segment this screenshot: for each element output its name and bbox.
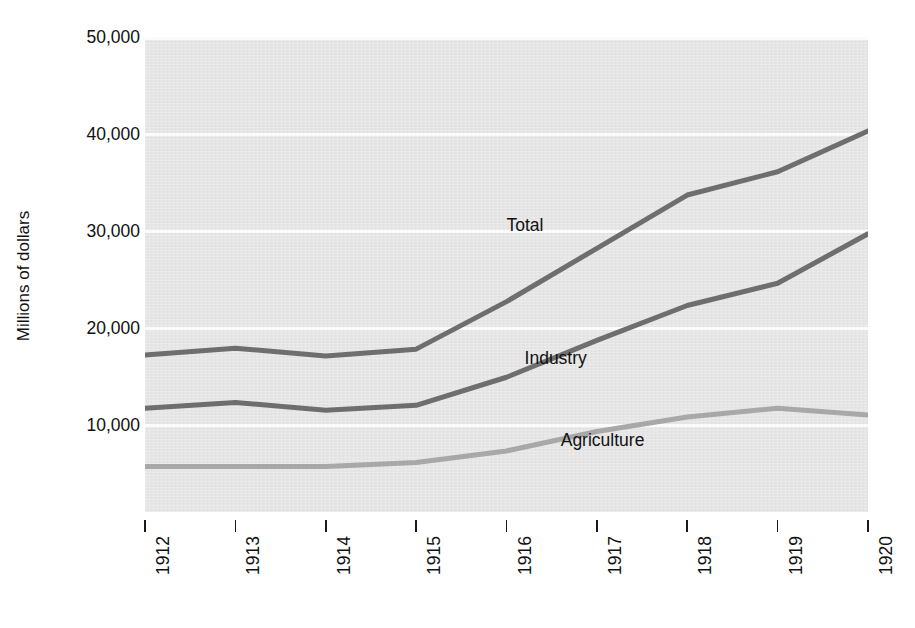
x-tick-label-1919: 1919	[786, 536, 807, 575]
x-tick-mark	[144, 520, 146, 532]
x-tick-mark	[506, 520, 508, 532]
series-label-agriculture: Agriculture	[561, 430, 645, 451]
x-tick-label-1918: 1918	[695, 536, 716, 575]
series-lines	[145, 38, 868, 512]
x-tick-label-1912: 1912	[153, 536, 174, 575]
x-tick-mark	[777, 520, 779, 532]
plot-area: TotalIndustryAgriculture	[145, 38, 868, 512]
y-tick-label: 30,000	[40, 221, 140, 242]
x-tick-mark	[415, 520, 417, 532]
x-tick-mark	[235, 520, 237, 532]
x-tick-mark	[867, 520, 869, 532]
y-tick-label: 20,000	[40, 318, 140, 339]
x-tick-label-1915: 1915	[424, 536, 445, 575]
y-tick-label: 10,000	[40, 415, 140, 436]
series-label-industry: Industry	[525, 348, 587, 369]
y-axis-tick-labels: 10,00020,00030,00040,00050,000	[36, 0, 140, 520]
series-line-agriculture	[145, 408, 868, 466]
x-tick-label-1917: 1917	[605, 536, 626, 575]
x-tick-label-1916: 1916	[515, 536, 536, 575]
series-label-total: Total	[507, 215, 544, 236]
x-tick-mark	[325, 520, 327, 532]
x-axis: 191219131914191519161917191819191920	[145, 512, 868, 628]
series-line-total	[145, 131, 868, 356]
x-tick-label-1914: 1914	[334, 536, 355, 575]
y-tick-label: 50,000	[40, 27, 140, 48]
x-tick-mark	[596, 520, 598, 532]
y-axis-title: Millions of dollars	[14, 166, 34, 386]
x-tick-label-1913: 1913	[243, 536, 264, 575]
series-line-industry	[145, 234, 868, 410]
x-tick-mark	[686, 520, 688, 532]
y-tick-label: 40,000	[40, 124, 140, 145]
line-chart-figure: Millions of dollars 10,00020,00030,00040…	[0, 0, 915, 628]
x-tick-label-1920: 1920	[876, 536, 897, 575]
